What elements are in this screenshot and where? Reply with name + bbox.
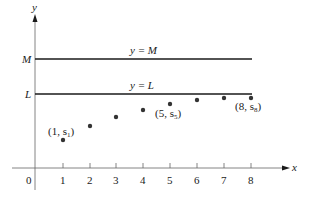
x-tick-label: 1	[60, 174, 66, 186]
x-tick-label: 4	[140, 174, 146, 186]
x-tick-label: 2	[87, 174, 93, 186]
x-tick-label: 7	[221, 174, 227, 186]
point-6	[195, 98, 199, 102]
y-axis-label: y	[31, 1, 37, 13]
point-5	[168, 102, 172, 106]
x-axis-arrow-icon	[282, 166, 290, 171]
sequence-bounds-diagram: y x 0 1 2 3 4 5 6 7 8 M y = M L y = L	[0, 0, 317, 197]
x-tick-label: 5	[167, 174, 173, 186]
point-7	[222, 96, 226, 100]
x-tick-label: 6	[194, 174, 200, 186]
point-label-1: (1, s1)	[48, 125, 74, 139]
upper-bound-axis-label: M	[21, 53, 32, 65]
point-3	[114, 115, 118, 119]
x-ticks	[63, 163, 251, 168]
x-tick-label: 8	[248, 174, 254, 186]
origin-label: 0	[26, 174, 32, 186]
point-label-8: (8, s8)	[235, 100, 261, 114]
lower-bound-line-label: y = L	[129, 79, 154, 91]
point-4	[141, 108, 145, 112]
point-2	[88, 124, 92, 128]
x-tick-label: 3	[113, 174, 119, 186]
x-axis-label: x	[291, 161, 297, 173]
y-axis-arrow-icon	[33, 14, 38, 22]
x-tick-labels: 1 2 3 4 5 6 7 8	[60, 174, 254, 186]
point-label-5: (5, s5)	[155, 107, 181, 121]
sequence-points	[61, 96, 253, 142]
upper-bound-line-label: y = M	[129, 44, 158, 56]
point-1	[61, 138, 65, 142]
lower-bound-axis-label: L	[24, 88, 31, 100]
